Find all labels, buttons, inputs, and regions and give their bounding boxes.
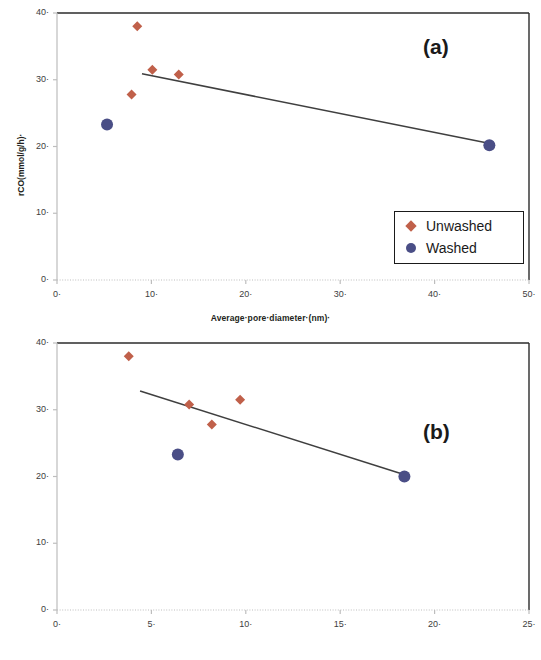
x-tick-label: 20·: [417, 619, 453, 629]
chart-panel-a: (a) rCO(mmol/g/h)· Average·pore·diameter…: [0, 0, 541, 330]
legend-label-washed: Washed: [422, 240, 477, 256]
x-tick-label: 30·: [322, 289, 358, 299]
chart-panel-b: (b) rCO(mmol/g/h)· Average·crystallite·s…: [0, 330, 541, 660]
y-tick-label: 40·: [21, 7, 49, 17]
legend-label-unwashed: Unwashed: [422, 218, 492, 234]
y-tick-label: 10·: [21, 537, 49, 547]
x-axis-title-a: Average·pore·diameter·(nm)·: [0, 313, 541, 323]
x-tick-label: 0·: [39, 619, 75, 629]
trendline: [142, 74, 491, 144]
x-tick-label: 25·: [511, 619, 541, 629]
y-tick-label: 20·: [21, 471, 49, 481]
y-tick-label: 0·: [21, 274, 49, 284]
data-point-washed: [398, 471, 410, 483]
data-point-unwashed: [174, 69, 184, 79]
legend-item-washed-a[interactable]: Washed: [400, 237, 516, 259]
data-point-washed: [101, 118, 113, 130]
panel-label-b: (b): [423, 420, 450, 444]
x-tick-label: 15·: [322, 619, 358, 629]
trendline: [140, 391, 406, 475]
y-tick-label: 10·: [21, 207, 49, 217]
y-tick-label: 30·: [21, 404, 49, 414]
x-tick-label: 20·: [228, 289, 264, 299]
y-tick-label: 30·: [21, 74, 49, 84]
legend-item-unwashed-a[interactable]: Unwashed: [400, 215, 516, 237]
legend-a: Unwashed Washed: [394, 211, 524, 264]
data-point-unwashed: [124, 351, 134, 361]
y-tick-label: 0·: [21, 604, 49, 614]
y-tick-label: 20·: [21, 141, 49, 151]
x-tick-label: 10·: [133, 289, 169, 299]
data-point-unwashed: [235, 395, 245, 405]
diamond-marker-icon: [400, 222, 422, 230]
scatter-plot-b: [0, 330, 541, 660]
scatter-plot-a: [0, 0, 541, 330]
data-point-unwashed: [132, 21, 142, 31]
x-tick-label: 5·: [133, 619, 169, 629]
data-point-unwashed: [147, 65, 157, 75]
x-tick-label: 40·: [417, 289, 453, 299]
circle-marker-icon: [400, 243, 422, 253]
data-point-washed: [483, 139, 495, 151]
data-point-unwashed: [207, 419, 217, 429]
data-point-washed: [172, 448, 184, 460]
panel-label-a: (a): [423, 35, 449, 59]
x-tick-label: 50·: [511, 289, 541, 299]
x-tick-label: 10·: [228, 619, 264, 629]
data-point-unwashed: [127, 89, 137, 99]
x-tick-label: 0·: [39, 289, 75, 299]
y-tick-label: 40·: [21, 337, 49, 347]
